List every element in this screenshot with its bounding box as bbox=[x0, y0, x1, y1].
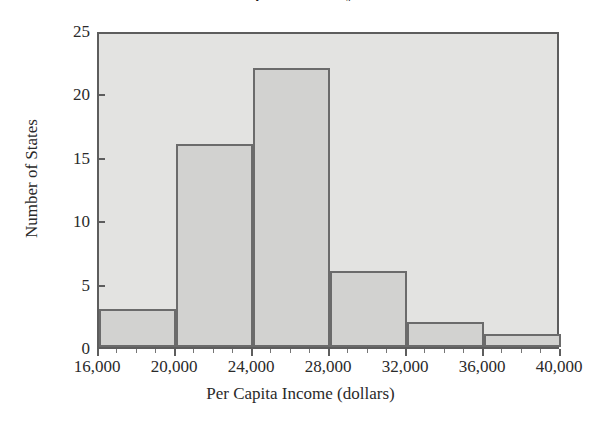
y-axis-tick-label: 25 bbox=[50, 23, 90, 40]
x-axis-minor-tick-mark bbox=[290, 349, 291, 353]
x-axis-minor-tick-mark bbox=[155, 349, 156, 353]
y-axis-tick-mark bbox=[97, 94, 105, 96]
y-axis-title: Number of States bbox=[23, 79, 40, 279]
x-axis-tick-mark bbox=[559, 349, 561, 356]
y-axis-tick-label: 20 bbox=[50, 86, 90, 103]
x-axis-minor-tick-mark bbox=[367, 349, 368, 353]
chart-title: Per Capita Income by State bbox=[0, 0, 601, 1]
x-axis-minor-tick-mark bbox=[270, 349, 271, 353]
y-axis-tick-mark bbox=[97, 221, 105, 223]
x-axis-tick-mark bbox=[174, 349, 176, 356]
x-axis-tick-mark bbox=[405, 349, 407, 356]
y-axis-tick-mark bbox=[97, 285, 105, 287]
plot-frame bbox=[97, 32, 559, 349]
x-axis-minor-tick-mark bbox=[309, 349, 310, 353]
x-axis-minor-tick-mark bbox=[136, 349, 137, 353]
y-axis-tick-label: 5 bbox=[50, 277, 90, 294]
x-axis-minor-tick-mark bbox=[444, 349, 445, 353]
x-axis-tick-mark bbox=[97, 349, 99, 356]
x-axis-tick-mark bbox=[251, 349, 253, 356]
x-axis-minor-tick-mark bbox=[232, 349, 233, 353]
x-axis-minor-tick-mark bbox=[386, 349, 387, 353]
x-axis-minor-tick-mark bbox=[463, 349, 464, 353]
x-axis-minor-tick-mark bbox=[193, 349, 194, 353]
x-axis-minor-tick-mark bbox=[213, 349, 214, 353]
histogram-bar bbox=[253, 68, 330, 347]
histogram-bar bbox=[330, 271, 407, 347]
x-axis-minor-tick-mark bbox=[116, 349, 117, 353]
y-axis-tick-label: 10 bbox=[50, 213, 90, 230]
x-axis-title: Per Capita Income (dollars) bbox=[0, 384, 601, 403]
x-axis-tick-label: 40,000 bbox=[514, 357, 601, 376]
x-axis-tick-mark bbox=[328, 349, 330, 356]
x-axis-minor-tick-mark bbox=[521, 349, 522, 353]
y-axis-tick-label: 0 bbox=[50, 340, 90, 357]
y-axis-tick-mark bbox=[97, 158, 105, 160]
plot-area bbox=[99, 34, 557, 347]
histogram-bar bbox=[99, 309, 176, 347]
x-axis-minor-tick-mark bbox=[347, 349, 348, 353]
y-axis-tick-label: 15 bbox=[50, 150, 90, 167]
x-axis-minor-tick-mark bbox=[424, 349, 425, 353]
histogram-figure: Per Capita Income by State 0510152025 Nu… bbox=[0, 0, 601, 425]
histogram-bar bbox=[484, 334, 561, 347]
x-axis-tick-mark bbox=[482, 349, 484, 356]
histogram-bar bbox=[176, 144, 253, 347]
x-axis-minor-tick-mark bbox=[501, 349, 502, 353]
x-axis-minor-tick-mark bbox=[540, 349, 541, 353]
histogram-bar bbox=[407, 322, 484, 347]
